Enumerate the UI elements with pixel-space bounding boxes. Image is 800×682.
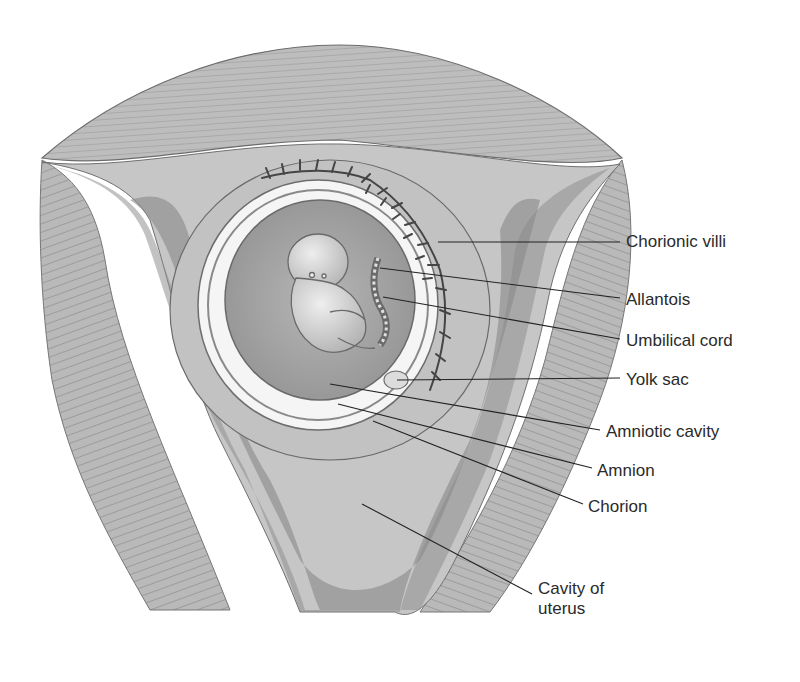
label-chorion: Chorion — [588, 497, 648, 517]
label-cavity-of-uterus: Cavity of uterus — [538, 579, 604, 619]
label-umbilical-cord: Umbilical cord — [626, 331, 733, 351]
label-allantois: Allantois — [626, 290, 690, 310]
uterus-embryo-diagram: Chorionic villi Allantois Umbilical cord… — [0, 0, 800, 682]
label-amniotic-cavity: Amniotic cavity — [606, 422, 719, 442]
label-yolk-sac: Yolk sac — [626, 370, 689, 390]
label-amnion: Amnion — [597, 461, 655, 481]
label-chorionic-villi: Chorionic villi — [626, 232, 726, 252]
